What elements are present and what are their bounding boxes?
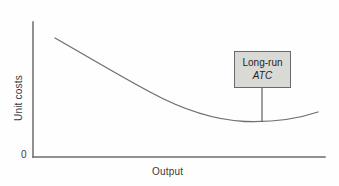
long-run-atc-callout: Long-run ATC <box>234 51 291 88</box>
cost-curve-figure: Unit costs Output 0 Long-run ATC <box>0 0 339 186</box>
callout-line-1: Long-run <box>242 57 282 70</box>
origin-label: 0 <box>21 149 27 160</box>
callout-line-2: ATC <box>253 70 272 83</box>
x-axis-label: Output <box>152 166 183 177</box>
plot-area <box>0 0 339 186</box>
y-axis-label: Unit costs <box>13 109 24 121</box>
